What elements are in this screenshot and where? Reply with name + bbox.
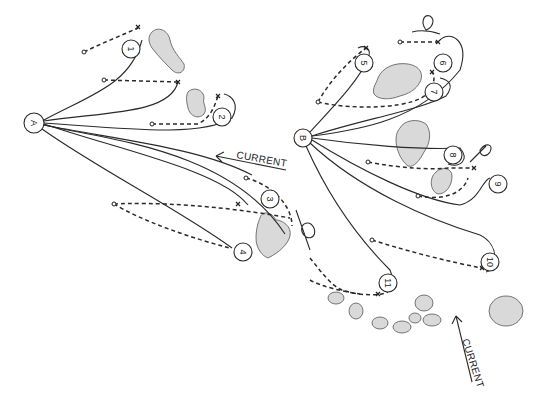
position-10: 10 [481, 253, 499, 271]
position-3: 3 [261, 190, 279, 208]
rock-1 [149, 29, 184, 73]
svg-text:10: 10 [485, 257, 495, 267]
pebble [372, 317, 388, 329]
pebble [423, 314, 441, 326]
rocks [149, 29, 523, 333]
svg-text:B: B [298, 135, 308, 141]
svg-text:8: 8 [448, 152, 458, 157]
svg-text:7: 7 [429, 89, 439, 94]
svg-text:4: 4 [238, 249, 248, 254]
position-5: 5 [355, 54, 373, 72]
pebble [409, 313, 421, 323]
position-7: 7 [425, 83, 443, 101]
svg-text:5: 5 [359, 60, 369, 65]
rock-kidney [373, 64, 421, 99]
pebble [349, 303, 363, 319]
svg-text:11: 11 [383, 278, 393, 287]
position-6: 6 [434, 54, 452, 72]
position-1: 1 [122, 40, 140, 58]
position-11: 11 [379, 274, 397, 292]
rock-small [431, 169, 452, 194]
current-label-2: CURRENT [460, 337, 486, 389]
pebble [328, 292, 344, 304]
position-2: 2 [213, 108, 231, 126]
casting-lines-a [42, 40, 285, 248]
bobber-icons [296, 16, 491, 250]
position-8: 8 [444, 146, 462, 164]
pebble [415, 295, 433, 311]
position-4: 4 [234, 243, 252, 261]
svg-text:3: 3 [265, 196, 275, 201]
current-label-1: CURRENT [236, 149, 288, 169]
anchor-a: A [24, 113, 44, 133]
pebble [393, 321, 411, 333]
rock-heart [256, 213, 290, 258]
svg-text:A: A [29, 120, 39, 126]
casting-diagram: CURRENT CURRENT A B 1 2 3 4 5 6 7 8 9 10… [0, 0, 541, 402]
rock-center [396, 121, 430, 167]
rock-2 [187, 89, 206, 117]
anchor-b: B [294, 129, 312, 147]
rock-round [489, 296, 523, 326]
position-9: 9 [489, 175, 507, 193]
svg-text:9: 9 [493, 181, 503, 186]
svg-text:2: 2 [217, 114, 227, 119]
svg-text:6: 6 [438, 60, 448, 65]
svg-text:1: 1 [126, 46, 136, 51]
